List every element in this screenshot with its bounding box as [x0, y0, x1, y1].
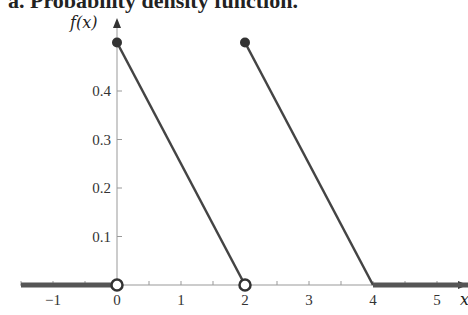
- y-axis-arrow-icon: [113, 18, 121, 28]
- closed-point-icon: [240, 38, 250, 48]
- y-tick-label: 0.3: [92, 132, 111, 148]
- x-axis-label: x: [460, 290, 468, 309]
- x-tick-label: −1: [45, 292, 61, 308]
- y-axis-label: f(x): [69, 13, 97, 32]
- y-tick-label: 0.2: [92, 180, 111, 196]
- pdf-segment: [117, 43, 245, 286]
- x-tick-label: 4: [369, 292, 377, 308]
- closed-point-icon: [112, 38, 122, 48]
- open-point-icon: [240, 280, 251, 291]
- pdf-segment: [245, 43, 373, 286]
- x-tick-label: 1: [177, 292, 185, 308]
- plot-area: [21, 38, 468, 291]
- y-tick-label: 0.4: [92, 83, 111, 99]
- x-tick-label: 0: [113, 292, 121, 308]
- tick-labels: −10123450.10.20.30.4xf(x): [45, 13, 468, 309]
- open-point-icon: [112, 280, 123, 291]
- y-tick-label: 0.1: [92, 229, 111, 245]
- x-tick-label: 5: [433, 292, 441, 308]
- x-tick-label: 2: [241, 292, 249, 308]
- axes: [20, 18, 468, 289]
- x-tick-label: 3: [305, 292, 313, 308]
- pdf-chart: −10123450.10.20.30.4xf(x): [0, 0, 468, 315]
